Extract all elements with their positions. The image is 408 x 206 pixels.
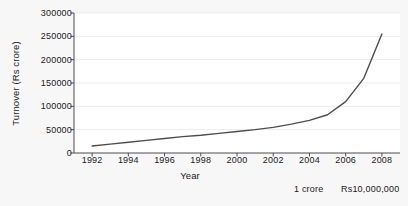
crore-value-note: Rs10,000,000 (341, 184, 399, 194)
y-tick-label: 250000 (41, 31, 72, 41)
x-tick-label: 2006 (335, 155, 356, 165)
y-tick-label: 100000 (41, 101, 72, 111)
y-axis-title: Turnover (Rs crore) (10, 24, 21, 144)
x-tick-label: 2008 (371, 155, 392, 165)
y-tick-label: 150000 (41, 78, 72, 88)
crore-note: 1 crore (294, 184, 323, 194)
x-tick-label: 2002 (263, 155, 284, 165)
x-tick-label: 1994 (118, 155, 139, 165)
x-axis-title: Year (160, 170, 220, 181)
line-chart-figure: Turnover (Rs crore) Year 050000100000150… (0, 0, 408, 206)
x-tick-label: 1996 (154, 155, 175, 165)
x-tick-label: 1998 (190, 155, 211, 165)
x-tick-label: 2000 (227, 155, 248, 165)
x-tick-label: 2004 (299, 155, 320, 165)
x-tick-label: 1992 (82, 155, 103, 165)
y-tick-label: 50000 (46, 125, 72, 135)
y-tick-label: 300000 (41, 8, 72, 18)
y-tick-label: 0 (67, 148, 72, 158)
y-tick-label: 200000 (41, 55, 72, 65)
